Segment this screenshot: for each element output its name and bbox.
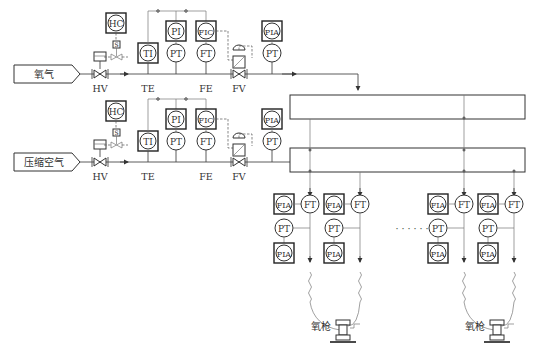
- hv-label-1: HV: [92, 83, 107, 94]
- pt-transmitter-2[interactable]: PT: [167, 132, 185, 150]
- air-source-label: 压缩空气: [24, 156, 64, 168]
- oxygen-lance-1[interactable]: 氧枪: [311, 320, 360, 342]
- pia-alarm[interactable]: PIA: [274, 243, 294, 263]
- svg-text:TE: TE: [141, 83, 154, 94]
- ft-transmitter-2[interactable]: FT: [197, 132, 215, 150]
- solenoid-valve-2[interactable]: S: [104, 129, 128, 148]
- svg-text:FT: FT: [200, 137, 212, 147]
- flow-valve-2[interactable]: FV: [231, 133, 252, 182]
- pia-alarm[interactable]: PIA: [428, 243, 448, 263]
- fia-alarm[interactable]: FIA: [478, 194, 498, 214]
- svg-text:TE: TE: [141, 171, 154, 182]
- svg-text:PI: PI: [171, 27, 181, 37]
- svg-text:氧枪: 氧枪: [311, 320, 331, 332]
- pt-transmitter[interactable]: PT: [479, 219, 497, 237]
- svg-text:PT: PT: [278, 224, 290, 234]
- pt-transmitter[interactable]: PT: [275, 219, 293, 237]
- svg-text:PIA: PIA: [431, 250, 446, 259]
- compressed-air-line: 压缩空气 HV S HC: [14, 98, 290, 182]
- oxygen-source-label: 氧气: [34, 68, 54, 80]
- oxygen-line: 氧气 HV S HC: [14, 10, 358, 94]
- pt-transmitter[interactable]: PT: [429, 219, 447, 237]
- pi-indicator-2[interactable]: PI: [166, 109, 186, 129]
- svg-text:PIA: PIA: [265, 116, 280, 125]
- svg-text:PT: PT: [170, 137, 182, 147]
- svg-text:PT: PT: [432, 224, 444, 234]
- pt-transmitter-2b[interactable]: PT: [263, 132, 281, 150]
- svg-text:FT: FT: [304, 200, 316, 210]
- hand-valve-1[interactable]: HV: [92, 52, 108, 94]
- svg-text:FT: FT: [508, 200, 520, 210]
- fia-alarm[interactable]: FIA: [324, 194, 344, 214]
- hc-indicator-1[interactable]: HC: [106, 13, 126, 41]
- svg-text:PIA: PIA: [327, 250, 342, 259]
- svg-text:HC: HC: [109, 19, 124, 29]
- svg-text:PIA: PIA: [481, 250, 496, 259]
- svg-text:FT: FT: [200, 49, 212, 59]
- ft-transmitter[interactable]: FT: [301, 195, 319, 213]
- oxygen-lance-2[interactable]: 氧枪: [465, 320, 514, 342]
- pi-indicator-1[interactable]: PI: [166, 21, 186, 41]
- pia-alarm-2[interactable]: PIA: [262, 109, 282, 129]
- flow-valve-1[interactable]: FV: [231, 45, 252, 94]
- svg-text:S: S: [114, 129, 118, 136]
- ti-indicator-1[interactable]: TI TE: [138, 43, 158, 94]
- svg-text:PT: PT: [170, 49, 182, 59]
- svg-text:FIA: FIA: [277, 201, 292, 210]
- ft-transmitter-1[interactable]: FT: [197, 44, 215, 62]
- svg-text:PIA: PIA: [265, 28, 280, 37]
- fic-controller-1[interactable]: FIC: [196, 21, 216, 41]
- svg-text:HV: HV: [92, 171, 107, 182]
- pt-transmitter-1b[interactable]: PT: [263, 44, 281, 62]
- svg-text:FIA: FIA: [327, 201, 342, 210]
- air-source-box[interactable]: 压缩空气: [14, 153, 80, 171]
- svg-text:PT: PT: [266, 49, 278, 59]
- svg-text:PT: PT: [266, 137, 278, 147]
- svg-text:FE: FE: [199, 171, 213, 182]
- svg-text:FIC: FIC: [199, 28, 214, 37]
- oxygen-source-box[interactable]: 氧气: [14, 65, 80, 83]
- branch-4: FIA FT PT PIA: [478, 194, 523, 326]
- svg-text:S: S: [114, 41, 118, 48]
- svg-text:PI: PI: [171, 115, 181, 125]
- svg-text:FV: FV: [232, 83, 246, 94]
- ti-indicator-2[interactable]: TI TE: [138, 131, 158, 182]
- fic-controller-2[interactable]: FIC: [196, 109, 216, 129]
- ft-transmitter[interactable]: FT: [455, 195, 473, 213]
- svg-text:FT: FT: [458, 200, 470, 210]
- fia-alarm[interactable]: FIA: [428, 194, 448, 214]
- pt-transmitter[interactable]: PT: [325, 219, 343, 237]
- pt-transmitter-1[interactable]: PT: [167, 44, 185, 62]
- pia-alarm[interactable]: PIA: [324, 243, 344, 263]
- pia-alarm[interactable]: PIA: [478, 243, 498, 263]
- svg-text:TI: TI: [143, 137, 153, 147]
- svg-text:FIA: FIA: [481, 201, 496, 210]
- svg-text:TI: TI: [143, 49, 153, 59]
- svg-text:FT: FT: [354, 200, 366, 210]
- svg-text:PIA: PIA: [277, 250, 292, 259]
- ellipsis: · · · · · ·: [395, 223, 428, 234]
- svg-text:FV: FV: [232, 171, 246, 182]
- fia-alarm[interactable]: FIA: [274, 194, 294, 214]
- pid-diagram: 氧气 HV S HC: [0, 0, 537, 353]
- solenoid-valve-1[interactable]: S: [104, 41, 128, 60]
- pia-alarm-1[interactable]: PIA: [262, 21, 282, 41]
- air-header-manifold[interactable]: [290, 148, 525, 172]
- svg-text:FE: FE: [199, 83, 213, 94]
- hc-indicator-2[interactable]: HC: [106, 101, 126, 129]
- oxygen-header-manifold[interactable]: [290, 95, 525, 119]
- svg-text:FIC: FIC: [199, 116, 214, 125]
- svg-text:氧枪: 氧枪: [465, 320, 485, 332]
- svg-text:FIA: FIA: [431, 201, 446, 210]
- svg-text:PT: PT: [482, 224, 494, 234]
- branch-2: FIA FT PT PIA: [324, 194, 369, 326]
- hand-valve-2[interactable]: HV: [92, 140, 108, 182]
- svg-text:HC: HC: [109, 107, 124, 117]
- svg-text:PT: PT: [328, 224, 340, 234]
- ft-transmitter[interactable]: FT: [351, 195, 369, 213]
- ft-transmitter[interactable]: FT: [505, 195, 523, 213]
